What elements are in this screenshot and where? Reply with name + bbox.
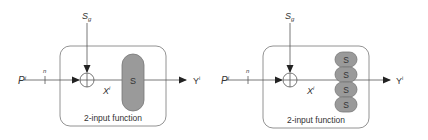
svg-text:S: S	[343, 55, 349, 65]
svg-text:S: S	[130, 76, 136, 86]
s-block: S	[335, 67, 357, 82]
intermediate-label: Xi	[102, 85, 111, 96]
block-caption: 2-input function	[287, 115, 345, 125]
s-block: S	[335, 52, 357, 67]
s-block-stack: S S S S	[335, 52, 357, 112]
svg-text:S: S	[343, 70, 349, 80]
bus-width-label: n	[246, 68, 250, 74]
block-caption: 2-input function	[84, 113, 142, 123]
diagram-canvas: Sg Pi n S Xi Yi 2-input	[0, 0, 428, 140]
s-block: S	[122, 54, 144, 111]
diagram-right: Sg Pi n S S S	[221, 11, 403, 128]
control-label: Sg	[82, 11, 92, 22]
svg-text:S: S	[343, 85, 349, 95]
input-label: Pi	[221, 75, 230, 86]
intermediate-label: Xi	[306, 85, 315, 96]
combiner-circle-icon	[283, 73, 297, 87]
svg-text:S: S	[343, 100, 349, 110]
input-label: Pi	[18, 75, 27, 86]
combiner-circle-icon	[80, 73, 94, 87]
diagram-left: Sg Pi n S Xi Yi 2-input	[18, 11, 200, 126]
s-block: S	[335, 82, 357, 97]
output-label: Yi	[396, 75, 403, 86]
output-label: Yi	[193, 75, 200, 86]
bus-width-label: n	[43, 68, 47, 74]
s-block: S	[335, 97, 357, 112]
control-label: Sg	[285, 11, 295, 22]
